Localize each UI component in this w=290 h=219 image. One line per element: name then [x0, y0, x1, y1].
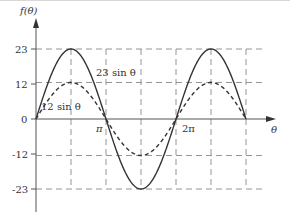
tick-label-0: 0: [21, 114, 27, 125]
x-axis-label: θ: [271, 124, 277, 135]
series-b-annotation: 12 sin θ: [41, 101, 81, 112]
tick-label-23: 23: [15, 44, 28, 55]
x-axis-arrow-icon: [266, 116, 276, 122]
pi-label: π: [95, 123, 103, 134]
y-axis-arrow-icon: [33, 18, 39, 28]
axes: [31, 18, 276, 212]
tick-label-m12: -12: [12, 149, 28, 160]
series-a-annotation: 23 sin θ: [96, 67, 136, 78]
tick-label-m23: -23: [12, 184, 28, 195]
sine-chart: f(θ) θ 23 12 0 -12 -23 π 2π 23 sin θ 12 …: [0, 0, 290, 219]
y-axis-label: f(θ): [19, 5, 38, 16]
tick-label-12: 12: [15, 79, 28, 90]
labels: f(θ) θ 23 12 0 -12 -23 π 2π 23 sin θ 12 …: [12, 5, 277, 195]
two-pi-label: 2π: [182, 123, 195, 134]
